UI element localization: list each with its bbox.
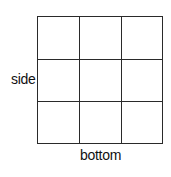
- side-label: side: [11, 72, 35, 86]
- grid-divider-vertical-1: [79, 17, 80, 143]
- grid-divider-horizontal-2: [38, 101, 162, 102]
- bottom-label: bottom: [80, 148, 121, 162]
- grid-divider-vertical-2: [121, 17, 122, 143]
- square-grid-3x3: [37, 16, 163, 144]
- grid-divider-horizontal-1: [38, 59, 162, 60]
